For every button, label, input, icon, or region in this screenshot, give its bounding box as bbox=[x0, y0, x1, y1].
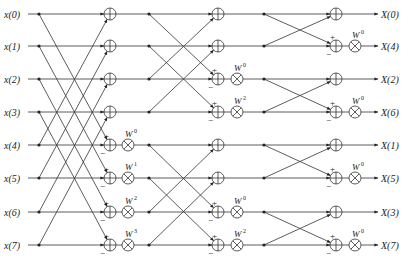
output-label: X(7) bbox=[380, 240, 399, 252]
minus-sign: − bbox=[100, 215, 105, 225]
twiddle-exponent: 0 bbox=[361, 29, 364, 35]
minus-sign: − bbox=[208, 215, 213, 225]
minus-sign: − bbox=[326, 115, 331, 125]
twiddle-exponent: 2 bbox=[134, 195, 137, 201]
butterfly-branch bbox=[264, 16, 331, 46]
input-label: x(0) bbox=[3, 9, 21, 21]
minus-sign: − bbox=[100, 248, 105, 258]
twiddle-exponent: 0 bbox=[361, 161, 364, 167]
fft-butterfly-diagram: x(0)x(1)x(2)x(3)x(4)x(5)x(6)x(7) X(0)X(4… bbox=[0, 0, 407, 263]
twiddle-exponent: 0 bbox=[243, 62, 246, 68]
branch-dot bbox=[262, 77, 265, 80]
branch-dot bbox=[37, 243, 40, 246]
butterfly-branch bbox=[264, 212, 331, 243]
butterfly-branch bbox=[39, 46, 107, 173]
butterfly-branch bbox=[39, 79, 107, 207]
twiddle-label: W bbox=[125, 229, 134, 239]
branch-dot bbox=[37, 143, 40, 146]
butterfly-branch bbox=[149, 18, 214, 79]
branch-dot bbox=[37, 210, 40, 213]
butterfly-branch bbox=[149, 145, 214, 208]
twiddle-label: W bbox=[352, 30, 361, 40]
input-labels: x(0)x(1)x(2)x(3)x(4)x(5)x(6)x(7) bbox=[3, 9, 21, 252]
branch-dot bbox=[37, 110, 40, 113]
output-labels: X(0)X(4)X(2)X(6)X(1)X(5)X(3)X(7) bbox=[380, 9, 399, 252]
input-label: x(7) bbox=[3, 240, 21, 252]
input-label: x(2) bbox=[3, 74, 21, 86]
butterfly-branch bbox=[39, 51, 107, 178]
input-label: x(3) bbox=[3, 107, 21, 119]
minus-sign: − bbox=[208, 115, 213, 125]
branch-dot bbox=[262, 210, 265, 213]
branch-dot bbox=[147, 77, 150, 80]
input-label: x(1) bbox=[3, 41, 21, 53]
butterfly-branch bbox=[264, 14, 331, 44]
minus-sign: − bbox=[100, 148, 105, 158]
twiddle-exponent: 0 bbox=[134, 128, 137, 134]
output-label: X(0) bbox=[380, 9, 399, 21]
branch-dot bbox=[147, 243, 150, 246]
twiddle-exponent: 1 bbox=[134, 161, 137, 167]
branch-dot bbox=[147, 176, 150, 179]
branch-dot bbox=[262, 176, 265, 179]
output-label: X(6) bbox=[380, 107, 399, 119]
twiddle-label: W bbox=[352, 229, 361, 239]
butterfly-branch bbox=[264, 81, 331, 112]
branch-dot bbox=[262, 143, 265, 146]
butterfly-nodes: +−+−+−+−W0W1W2W3+−+−+−+−W0W2W0W2+−+−+−+−… bbox=[37, 8, 364, 258]
branch-dot bbox=[147, 110, 150, 113]
butterfly-branch bbox=[264, 214, 331, 245]
output-label: X(2) bbox=[380, 74, 399, 86]
branch-dot bbox=[262, 44, 265, 47]
minus-sign: − bbox=[208, 248, 213, 258]
twiddle-label: W bbox=[125, 162, 134, 172]
butterfly-branch bbox=[39, 84, 107, 212]
butterfly-branch bbox=[149, 50, 214, 112]
branch-dot bbox=[147, 12, 150, 15]
butterfly-branch bbox=[149, 14, 214, 75]
minus-sign: − bbox=[326, 248, 331, 258]
branch-dot bbox=[37, 12, 40, 15]
twiddle-label: W bbox=[234, 196, 243, 206]
twiddle-label: W bbox=[352, 96, 361, 106]
twiddle-exponent: 2 bbox=[243, 228, 246, 234]
twiddle-label: W bbox=[125, 196, 134, 206]
branch-dot bbox=[262, 12, 265, 15]
branch-dot bbox=[37, 77, 40, 80]
twiddle-label: W bbox=[352, 162, 361, 172]
output-label: X(5) bbox=[380, 173, 399, 185]
butterfly-branch bbox=[39, 112, 107, 240]
twiddle-label: W bbox=[234, 96, 243, 106]
butterfly-branch bbox=[264, 147, 331, 178]
butterfly-branch bbox=[39, 19, 107, 145]
minus-sign: − bbox=[326, 181, 331, 191]
twiddle-exponent: 0 bbox=[243, 195, 246, 201]
branch-dot bbox=[37, 44, 40, 47]
twiddle-exponent: 0 bbox=[361, 95, 364, 101]
twiddle-exponent: 3 bbox=[134, 228, 137, 234]
minus-sign: − bbox=[208, 82, 213, 92]
input-label: x(5) bbox=[3, 173, 21, 185]
branch-dot bbox=[262, 243, 265, 246]
twiddle-label: W bbox=[234, 63, 243, 73]
butterfly-branch bbox=[149, 46, 214, 108]
butterfly-branch bbox=[39, 117, 107, 245]
butterfly-branch bbox=[264, 79, 331, 110]
branch-dot bbox=[147, 210, 150, 213]
branch-dot bbox=[37, 176, 40, 179]
twiddle-label: W bbox=[234, 229, 243, 239]
butterfly-branch bbox=[149, 182, 214, 245]
branch-dot bbox=[147, 44, 150, 47]
output-label: X(4) bbox=[380, 41, 399, 53]
input-label: x(6) bbox=[3, 207, 21, 219]
twiddle-label: W bbox=[125, 129, 134, 139]
butterfly-branch bbox=[149, 178, 214, 241]
minus-sign: − bbox=[326, 49, 331, 59]
twiddle-exponent: 2 bbox=[243, 95, 246, 101]
input-label: x(4) bbox=[3, 140, 21, 152]
twiddle-exponent: 0 bbox=[361, 228, 364, 234]
branch-dot bbox=[147, 143, 150, 146]
branch-dot bbox=[262, 110, 265, 113]
butterfly-branch bbox=[149, 149, 214, 212]
output-label: X(3) bbox=[380, 207, 399, 219]
